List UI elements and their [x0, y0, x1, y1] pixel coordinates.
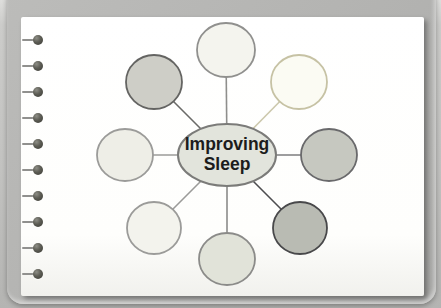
diagram-node-bottom [199, 233, 255, 285]
diagram-node-left [97, 129, 153, 181]
diagram-node-right [301, 129, 357, 181]
diagram-node-bottom-left [127, 202, 181, 254]
diagram-node-top-left [126, 55, 182, 109]
diagram-node-top-right [271, 55, 327, 109]
diagram-node-top [197, 23, 255, 77]
diagram-node-bottom-right [273, 202, 327, 254]
notebook-photo: ImprovingSleep [0, 0, 441, 308]
spider-diagram: ImprovingSleep [0, 0, 441, 308]
